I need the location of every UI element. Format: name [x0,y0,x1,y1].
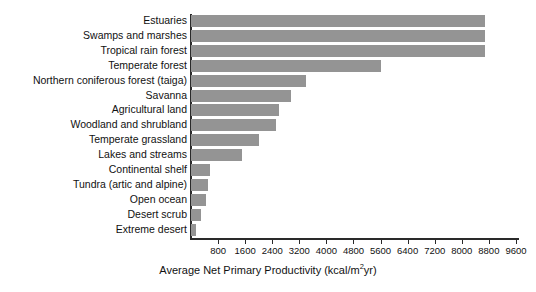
bar-row: Desert scrub [0,208,536,222]
x-axis-tick-label: 3200 [289,245,310,257]
bar-row: Estuaries [0,14,536,28]
bar [191,179,208,191]
x-axis-tick [489,239,490,244]
x-axis-tick-label: 9600 [505,245,526,257]
x-axis-tick-label: 7200 [424,245,445,257]
bar-rows: EstuariesSwamps and marshesTropical rain… [0,0,536,224]
x-axis-tick [516,239,517,244]
bar-category-label: Lakes and streams [98,147,187,161]
bar-row: Open ocean [0,193,536,207]
x-axis-tick-label: 800 [210,245,226,257]
bar-category-label: Tundra (artic and alpine) [73,177,187,191]
bar [191,15,485,27]
bar-category-label: Desert scrub [127,207,187,221]
bar-category-label: Savanna [146,88,187,102]
bar [191,209,201,221]
x-axis-tick [299,239,300,244]
bar-row: Temperate grassland [0,133,536,147]
bar [191,60,381,72]
x-axis-tick-label: 5600 [370,245,391,257]
bar-row: Extreme desert [0,223,536,237]
bar-row: Temperate forest [0,59,536,73]
bar-row: Lakes and streams [0,148,536,162]
x-axis-tick [245,239,246,244]
x-axis-tick [218,239,219,244]
x-axis-title: Average Net Primary Productivity (kcal/m… [0,262,536,276]
bar [191,134,259,146]
x-axis-tick-label: 4800 [343,245,364,257]
bar-row: Swamps and marshes [0,29,536,43]
bar-chart: EstuariesSwamps and marshesTropical rain… [0,0,536,292]
bar-row: Savanna [0,89,536,103]
bar-category-label: Agricultural land [112,102,187,116]
x-axis-title-before: Average Net Primary Productivity (kcal/m [159,264,359,276]
bar-category-label: Continental shelf [109,162,187,176]
bar-row: Agricultural land [0,103,536,117]
x-axis-tick [326,239,327,244]
x-axis-line [190,238,519,240]
x-axis-tick [272,239,273,244]
bar-category-label: Extreme desert [116,222,187,236]
bar-category-label: Temperate forest [108,58,187,72]
bar [191,45,485,57]
bar-row: Woodland and shrubland [0,118,536,132]
x-axis-tick [408,239,409,244]
x-axis-tick-label: 4000 [316,245,337,257]
bar-category-label: Temperate grassland [89,132,187,146]
bar [191,119,276,131]
bar [191,149,242,161]
bar-category-label: Northern coniferous forest (taiga) [33,73,187,87]
x-axis-tick-label: 8800 [478,245,499,257]
bar-row: Tundra (artic and alpine) [0,178,536,192]
bar-category-label: Woodland and shrubland [70,117,187,131]
x-axis-title-after: yr) [364,264,377,276]
x-axis-tick-label: 8000 [451,245,472,257]
x-axis-tick [353,239,354,244]
bar-row: Tropical rain forest [0,44,536,58]
x-axis-tick-label: 2400 [262,245,283,257]
bar [191,90,291,102]
bar-category-label: Swamps and marshes [83,28,187,42]
bar [191,30,485,42]
bar [191,104,279,116]
x-axis-tick-label: 1600 [235,245,256,257]
bar [191,164,210,176]
bar [191,194,206,206]
bar-category-label: Estuaries [143,13,187,27]
x-axis-tick [381,239,382,244]
x-axis-tick [462,239,463,244]
x-axis-tick [435,239,436,244]
x-axis-tick-label: 6400 [397,245,418,257]
bar-category-label: Open ocean [130,192,187,206]
bar [191,224,196,236]
bar-category-label: Tropical rain forest [100,43,187,57]
bar-row: Northern coniferous forest (taiga) [0,74,536,88]
bar-row: Continental shelf [0,163,536,177]
bar [191,75,306,87]
